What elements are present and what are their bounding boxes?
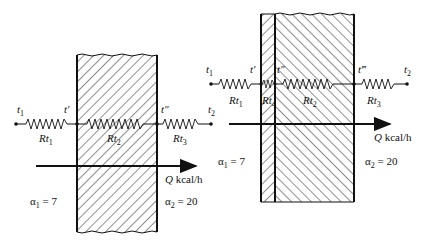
- right-alpha1-label: α1 = 7: [218, 156, 245, 170]
- left-t-dprime-label: t″: [161, 104, 169, 115]
- right-t2-label: t2: [404, 64, 411, 78]
- right-rt2-label: Rt2: [303, 95, 317, 109]
- left-rt3-label: Rt3: [173, 133, 187, 147]
- right-rt3-label: Rt3: [367, 95, 381, 109]
- left-t-prime-label: t′: [64, 104, 69, 115]
- right-t-dprime-label: t″: [277, 64, 285, 75]
- right-alpha2-label: α2 = 20: [365, 156, 397, 170]
- right-rt4-label: Rt4: [262, 95, 276, 109]
- right-t-tprime-label: t‴: [358, 64, 366, 75]
- diagram-canvas: [0, 0, 427, 247]
- left-rt2-label: Rt2: [107, 133, 121, 147]
- right-q-label: Q kcal/h: [374, 132, 412, 143]
- left-rt1-label: Rt1: [39, 133, 53, 147]
- right-rt1-label: Rt1: [229, 95, 243, 109]
- right-t1-label: t1: [206, 64, 213, 78]
- left-alpha2-label: α2 = 20: [165, 196, 197, 210]
- left-q-label: Q kcal/h: [165, 174, 203, 185]
- left-t2-label: t2: [208, 104, 215, 118]
- left-t1-label: t1: [17, 104, 24, 118]
- right-t-prime-label: t′: [250, 64, 255, 75]
- left-alpha1-label: α1 = 7: [30, 196, 57, 210]
